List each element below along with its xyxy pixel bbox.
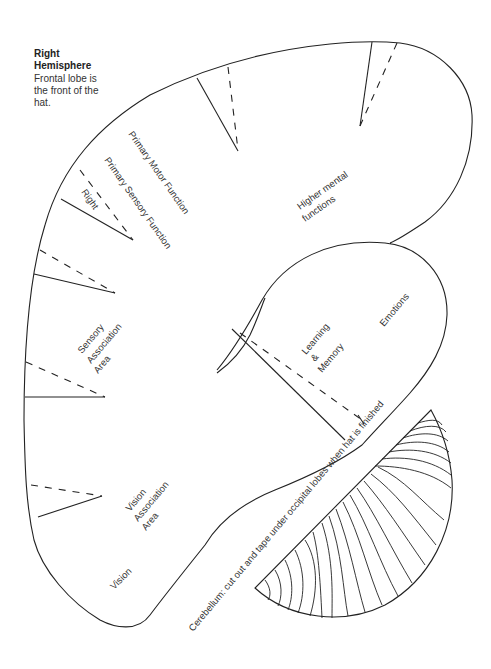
cerebellum-striations <box>265 420 451 618</box>
motor-fold-line <box>228 67 238 150</box>
parietal-fold-line <box>40 250 115 293</box>
limbic-boundary-line <box>232 329 345 440</box>
occipital-boundary-line <box>38 496 102 517</box>
brain-hat-diagram: Primary Motor Function Primary Sensory F… <box>0 0 491 669</box>
label-cerebellum-instruction: Cerebellum: cut out and tape under occip… <box>186 398 386 633</box>
label-learning: Learning <box>299 321 331 356</box>
label-right: Right <box>79 187 101 212</box>
parietal-boundary-line <box>34 274 115 293</box>
label-emotions: Emotions <box>377 291 411 329</box>
label-memory: Memory <box>315 341 346 375</box>
motor-boundary-line <box>197 78 238 151</box>
occipital-fold-line <box>31 485 102 496</box>
label-vision: Vision <box>108 565 134 591</box>
